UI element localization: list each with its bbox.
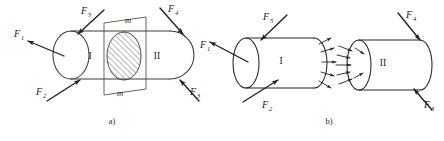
force-label-b-F3: F 3: [423, 99, 435, 112]
region-label-a-II: II: [154, 51, 160, 61]
force-arrow-a-F2: [47, 80, 80, 101]
svg-text:F: F: [167, 3, 175, 14]
caption-b: b): [325, 116, 332, 126]
part-a-group: I II m m F 1 F 5: [13, 3, 201, 126]
force-arrow-b-F1: [210, 42, 248, 62]
svg-text:F: F: [189, 86, 197, 97]
force-label-b-F5: F 5: [262, 11, 274, 24]
section-hatched-area: [107, 32, 141, 80]
segment-II-outline-b: [347, 40, 432, 90]
force-label-a-F5: F 5: [80, 5, 92, 18]
force-label-b-F4: F 4: [405, 9, 417, 22]
svg-text:F: F: [405, 9, 413, 20]
part-b-group: I II: [199, 9, 435, 126]
svg-text:2: 2: [43, 92, 47, 99]
force-arrow-a-F1: [28, 41, 64, 56]
svg-text:2: 2: [269, 105, 273, 112]
section-label-m-top: m: [125, 15, 131, 25]
svg-text:1: 1: [207, 45, 210, 52]
force-labels-b: F 1 F 5 F 2 F 4 F 3: [199, 9, 435, 112]
svg-text:F: F: [13, 28, 21, 39]
svg-text:F: F: [35, 86, 43, 97]
force-arrow-b-F2: [243, 80, 278, 102]
svg-text:F: F: [423, 99, 431, 110]
caption-a: a): [109, 116, 116, 126]
svg-text:3: 3: [196, 92, 201, 99]
svg-text:5: 5: [270, 17, 274, 24]
force-arrows-b: [210, 13, 432, 110]
force-label-a-F1: F 1: [13, 28, 24, 41]
svg-text:F: F: [262, 11, 270, 22]
figure-container: I II m m F 1 F 5: [0, 0, 444, 141]
svg-text:3: 3: [430, 105, 435, 112]
section-label-m-bottom: m: [117, 88, 123, 98]
region-label-b-I: I: [279, 56, 282, 66]
region-label-b-II: II: [380, 58, 386, 68]
svg-text:F: F: [80, 5, 88, 16]
svg-text:4: 4: [413, 15, 417, 22]
svg-text:5: 5: [88, 11, 92, 18]
mechanics-figure: I II m m F 1 F 5: [0, 0, 444, 141]
svg-text:F: F: [261, 99, 269, 110]
svg-text:F: F: [199, 39, 207, 50]
force-label-b-F1: F 1: [199, 39, 210, 52]
force-label-a-F2: F 2: [35, 86, 47, 99]
internal-forces-segment-II: [336, 46, 364, 84]
svg-text:1: 1: [21, 34, 24, 41]
region-label-a-I: I: [88, 51, 91, 61]
force-label-b-F2: F 2: [261, 99, 273, 112]
svg-text:4: 4: [175, 9, 179, 16]
force-label-a-F4: F 4: [167, 3, 179, 16]
